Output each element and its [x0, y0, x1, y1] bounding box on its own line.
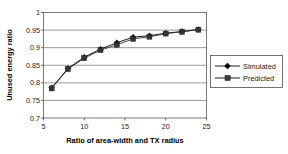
square-marker-icon: [225, 75, 230, 80]
x-axis-title: Ratio of area-width and TX radius: [66, 136, 183, 145]
x-tick-label: 5: [42, 122, 46, 131]
y-axis-title: Unused energy ratio: [5, 29, 14, 101]
square-marker-icon: [49, 86, 54, 91]
y-tick-label: 0.8: [30, 78, 40, 87]
square-marker-icon: [98, 48, 103, 53]
square-marker-icon: [131, 36, 136, 41]
y-tick-label: 1: [36, 8, 40, 17]
chart-container: 1 0.95 0.9 0.85 0.8 0.75 0.7 5 10 15 20 …: [0, 0, 288, 154]
y-tick-label: 0.7: [30, 114, 40, 123]
x-tick-label: 10: [80, 122, 88, 131]
square-marker-icon: [163, 31, 168, 36]
y-tick-label: 0.75: [26, 96, 40, 105]
square-marker-icon: [65, 67, 70, 72]
legend-box: [211, 56, 283, 88]
y-tick-label: 0.9: [30, 43, 40, 52]
y-tick-label: 0.85: [26, 61, 40, 70]
line-chart: 1 0.95 0.9 0.85 0.8 0.75 0.7 5 10 15 20 …: [0, 0, 288, 154]
square-marker-icon: [147, 34, 152, 39]
legend-label-predicted: Predicted: [243, 74, 274, 83]
legend-label-simulated: Simulated: [243, 62, 276, 71]
legend: Simulated Predicted: [211, 56, 283, 88]
x-tick-label: 20: [162, 122, 170, 131]
square-marker-icon: [82, 56, 87, 61]
x-tick-label: 15: [121, 122, 129, 131]
x-tick-label: 25: [203, 122, 211, 131]
y-tick-label: 0.95: [26, 26, 40, 35]
square-marker-icon: [114, 42, 119, 47]
square-marker-icon: [196, 27, 201, 32]
square-marker-icon: [180, 29, 185, 34]
